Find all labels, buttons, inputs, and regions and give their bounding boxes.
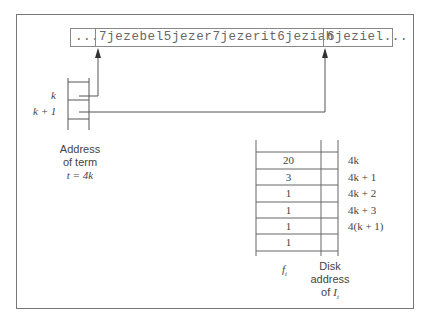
column-label-ft: ft <box>282 263 287 278</box>
table-cell-ft: 1 <box>256 236 321 248</box>
disk-address-label: 4k + 3 <box>348 204 376 216</box>
pointer-label-k-plus-1: k + 1 <box>33 105 56 117</box>
column-label-disk-address: Disk address of It <box>304 260 356 304</box>
table-cell-ft: 20 <box>256 154 321 166</box>
disk-address-label: 4(k + 1) <box>348 220 384 232</box>
disk-address-label: 4k + 1 <box>348 171 376 183</box>
table-cell-ft: 1 <box>256 220 321 232</box>
table-cell-ft: 1 <box>256 187 321 199</box>
table-cell-ft: 3 <box>256 171 321 183</box>
pointer-caption: Address of term t = 4k <box>46 143 114 182</box>
pointer-label-k: k <box>51 89 56 101</box>
disk-address-label: 4k + 2 <box>348 187 376 199</box>
disk-address-label: 4k <box>348 154 359 166</box>
table-cell-ft: 1 <box>256 204 321 216</box>
